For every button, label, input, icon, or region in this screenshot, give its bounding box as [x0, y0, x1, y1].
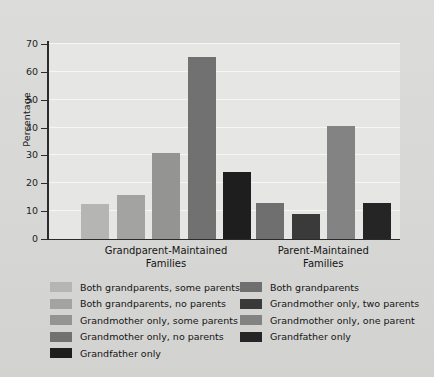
- legend-item-right-2: Grandmother only, two parents: [240, 296, 430, 313]
- legend-item-left-2: Both grandparents, no parents: [50, 296, 240, 313]
- chart-legend: Both grandparents, some parentsBoth gran…: [50, 279, 430, 373]
- legend-label: Grandmother only, no parents: [80, 332, 224, 342]
- bar-g2-1: [256, 203, 284, 239]
- bar-g1-5: [223, 172, 251, 239]
- legend-swatch-icon: [50, 315, 72, 325]
- y-tick-label-20: 20: [16, 178, 38, 188]
- legend-swatch-icon: [240, 315, 262, 325]
- category-label-line2: Families: [76, 258, 256, 271]
- legend-item-right-1: Both grandparents: [240, 279, 430, 296]
- y-tick-60: [41, 72, 47, 73]
- y-axis-ticks: 010203040506070: [0, 0, 48, 377]
- plot-area: [48, 44, 400, 239]
- legend-item-left-4: Grandmother only, no parents: [50, 329, 240, 346]
- y-tick-20: [41, 183, 47, 184]
- y-tick-0: [41, 239, 47, 240]
- legend-swatch-icon: [240, 299, 262, 309]
- legend-swatch-icon: [240, 282, 262, 292]
- y-tick-label-wrap-0: 0: [14, 234, 38, 244]
- y-tick-label-wrap-10: 10: [14, 206, 38, 216]
- legend-swatch-icon: [50, 348, 72, 358]
- bar-g2-2: [292, 214, 320, 239]
- y-tick-50: [41, 100, 47, 101]
- legend-label: Both grandparents, no parents: [80, 299, 226, 309]
- bar-g1-1: [81, 204, 109, 239]
- gridline-60: [48, 71, 400, 72]
- legend-label: Both grandparents, some parents: [80, 283, 240, 293]
- legend-item-right-3: Grandmother only, one parent: [240, 312, 430, 329]
- legend-swatch-icon: [240, 332, 262, 342]
- category-label-1: Grandparent-MaintainedFamilies: [76, 245, 256, 270]
- y-tick-30: [41, 155, 47, 156]
- y-tick-10: [41, 211, 47, 212]
- legend-label: Grandmother only, one parent: [270, 316, 415, 326]
- bar-g1-4: [188, 57, 216, 239]
- legend-label: Grandfather only: [270, 332, 351, 342]
- legend-swatch-icon: [50, 332, 72, 342]
- legend-swatch-icon: [50, 299, 72, 309]
- legend-label: Grandmother only, some parents: [80, 316, 238, 326]
- legend-label: Grandfather only: [80, 349, 161, 359]
- category-label-line1: Grandparent-Maintained: [76, 245, 256, 258]
- bar-g1-2: [117, 195, 145, 239]
- category-label-2: Parent-MaintainedFamilies: [233, 245, 413, 270]
- y-tick-label-10: 10: [16, 206, 38, 216]
- chart-figure: 010203040506070 Percentage Grandparent-M…: [0, 0, 434, 377]
- legend-column-right: Both grandparentsGrandmother only, two p…: [240, 279, 430, 345]
- category-label-line2: Families: [233, 258, 413, 271]
- y-tick-40: [41, 128, 47, 129]
- y-tick-label-wrap-20: 20: [14, 178, 38, 188]
- legend-item-left-1: Both grandparents, some parents: [50, 279, 240, 296]
- y-tick-label-wrap-70: 70: [14, 39, 38, 49]
- legend-label: Grandmother only, two parents: [270, 299, 419, 309]
- y-tick-label-0: 0: [16, 234, 38, 244]
- legend-item-left-5: Grandfather only: [50, 345, 240, 362]
- legend-item-right-4: Grandfather only: [240, 329, 430, 346]
- y-axis-title: Percentage: [21, 75, 32, 165]
- x-axis-line: [47, 239, 400, 241]
- y-tick-label-70: 70: [16, 39, 38, 49]
- y-tick-70: [41, 44, 47, 45]
- legend-label: Both grandparents: [270, 283, 359, 293]
- gridline-70: [48, 43, 400, 44]
- bar-g1-3: [152, 153, 180, 239]
- bar-g2-4: [363, 203, 391, 239]
- bar-g2-3: [327, 126, 355, 239]
- gridline-50: [48, 99, 400, 100]
- legend-column-left: Both grandparents, some parentsBoth gran…: [50, 279, 240, 362]
- category-label-line1: Parent-Maintained: [233, 245, 413, 258]
- legend-swatch-icon: [50, 282, 72, 292]
- legend-item-left-3: Grandmother only, some parents: [50, 312, 240, 329]
